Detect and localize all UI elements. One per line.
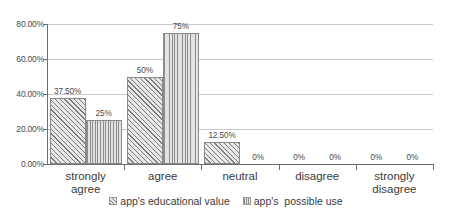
category-label: disagree	[279, 170, 356, 183]
y-tick-label: 0.00%	[0, 159, 44, 169]
bar-chart: 37.50%25%50%75%12.50%0%0%0%0%0% 0.00%20.…	[0, 0, 452, 216]
bar-value-label: 75%	[149, 22, 213, 31]
legend-swatch-hatch-icon	[109, 197, 117, 205]
legend-item-series-2[interactable]: app's possible use	[243, 195, 343, 207]
y-tick-label: 40.00%	[0, 89, 44, 99]
bar-value-label: 0%	[380, 153, 444, 162]
legend-item-series-1[interactable]: app's educational value	[109, 195, 229, 207]
y-tick-label: 20.00%	[0, 124, 44, 134]
chart-legend: app's educational value app's possible u…	[0, 195, 452, 207]
category-label: neutral	[201, 170, 278, 183]
bar[interactable]	[50, 98, 86, 164]
gridline-40	[47, 94, 433, 95]
legend-label-series-1: app's educational value	[120, 195, 229, 207]
gridline-60	[47, 59, 433, 60]
gridline-80	[47, 24, 433, 25]
legend-label-series-2: app's possible use	[254, 195, 343, 207]
category-label: strongly disagree	[356, 170, 433, 196]
bar-value-label: 37.50%	[36, 87, 100, 96]
bar[interactable]	[163, 33, 199, 164]
category-label: strongly agree	[47, 170, 124, 196]
bar[interactable]	[127, 77, 163, 165]
legend-swatch-vertical-icon	[243, 197, 251, 205]
x-axis-line	[47, 164, 434, 165]
bar[interactable]	[86, 120, 122, 164]
x-tick-mark	[433, 164, 434, 170]
bar-value-label: 12.50%	[190, 131, 254, 140]
y-tick-label: 80.00%	[0, 19, 44, 29]
plot-area: 37.50%25%50%75%12.50%0%0%0%0%0%	[47, 24, 433, 164]
category-label: agree	[124, 170, 201, 183]
y-tick-label: 60.00%	[0, 54, 44, 64]
